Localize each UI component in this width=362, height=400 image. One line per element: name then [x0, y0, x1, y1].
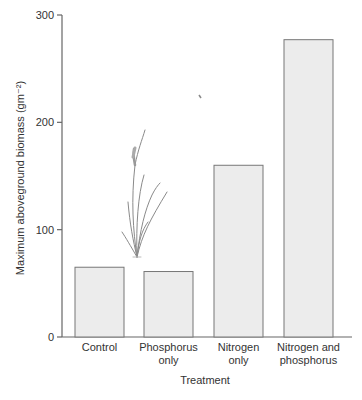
- y-axis-title: Maximum aboveground biomass (gm⁻²): [14, 81, 26, 275]
- x-tick-label: Phosphorus: [139, 341, 198, 353]
- y-axis: 0100200300: [36, 9, 62, 343]
- x-tick-label: Control: [82, 341, 117, 353]
- bar-nitrogen-and-phosphorus: [284, 40, 333, 337]
- bar-control: [75, 267, 124, 337]
- x-tick-label: phosphorus: [280, 354, 338, 366]
- x-tick-label: only: [158, 354, 179, 366]
- x-tick-label: only: [228, 354, 249, 366]
- x-tick-label: Nitrogen and: [277, 341, 340, 353]
- bars: [75, 40, 333, 337]
- speck-mark: [199, 95, 201, 98]
- y-tick-label: 200: [36, 116, 54, 128]
- x-tick-labels: ControlPhosphorusonlyNitrogenonlyNitroge…: [82, 341, 340, 366]
- bar-phosphorus-only: [144, 272, 193, 337]
- y-tick-label: 300: [36, 9, 54, 21]
- grass-plant-icon: [122, 130, 167, 257]
- x-tick-label: Nitrogen: [218, 341, 260, 353]
- bar-nitrogen-only: [214, 165, 263, 337]
- bar-chart: 0100200300 ControlPhosphorusonlyNitrogen…: [0, 0, 362, 400]
- y-tick-label: 0: [48, 331, 54, 343]
- x-axis-title: Treatment: [180, 374, 230, 386]
- y-tick-label: 100: [36, 224, 54, 236]
